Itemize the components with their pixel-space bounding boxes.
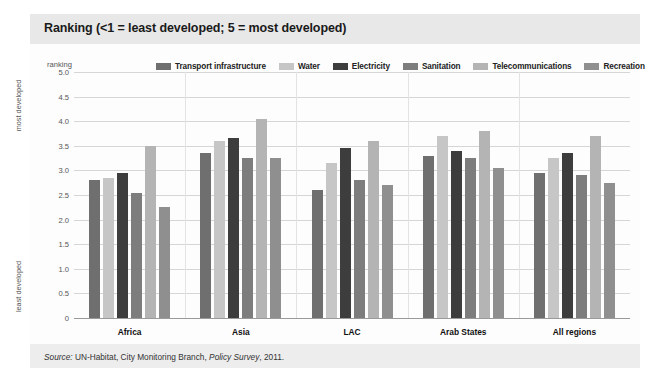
bar — [214, 141, 225, 318]
bar — [103, 178, 114, 318]
source-prefix: Source: — [44, 352, 73, 362]
gridline: 0 — [74, 318, 630, 319]
legend-entry: Telecommunications — [473, 62, 571, 71]
bar-group: Africa — [74, 72, 185, 318]
y-axis-tick-label: 0.5 — [58, 289, 69, 298]
legend-label: Recreation — [603, 62, 644, 71]
source-note: Source: UN-Habitat, City Monitoring Bran… — [44, 352, 284, 362]
bar — [159, 207, 170, 318]
bar — [534, 173, 545, 318]
legend-swatch-icon — [333, 63, 348, 70]
bar — [604, 183, 615, 318]
x-axis-category-label: Africa — [74, 327, 185, 337]
chart-figure: Ranking (<1 = least developed; 5 = most … — [0, 0, 670, 390]
legend-entry: Sanitation — [403, 62, 461, 71]
legend-entry: Water — [279, 62, 320, 71]
bar — [89, 180, 100, 318]
bar — [576, 175, 587, 318]
bar — [256, 119, 267, 318]
legend-entry: Transport infrastructure — [156, 62, 266, 71]
legend-entry: Recreation — [584, 62, 644, 71]
bar — [479, 131, 490, 318]
source-text: UN-Habitat, City Monitoring Branch, — [73, 352, 210, 362]
x-axis-category-label: Arab States — [408, 327, 519, 337]
legend-label: Electricity — [352, 62, 390, 71]
bar — [200, 153, 211, 318]
bar — [270, 158, 281, 318]
x-axis-category-label: Asia — [185, 327, 296, 337]
bar — [382, 185, 393, 318]
chart-title: Ranking (<1 = least developed; 5 = most … — [44, 21, 346, 35]
bar-group: LAC — [296, 72, 407, 318]
legend-swatch-icon — [403, 63, 418, 70]
x-axis-category-label: All regions — [519, 327, 630, 337]
legend-label: Sanitation — [422, 62, 461, 71]
bar — [465, 158, 476, 318]
bar — [117, 173, 128, 318]
bar — [312, 190, 323, 318]
y-axis-tick-label: 0 — [65, 314, 69, 323]
bar — [228, 138, 239, 318]
legend-label: Transport infrastructure — [175, 62, 266, 71]
bar — [590, 136, 601, 318]
bar — [451, 151, 462, 318]
bar — [548, 158, 559, 318]
legend-swatch-icon — [156, 63, 171, 70]
bar — [242, 158, 253, 318]
legend-swatch-icon — [473, 63, 488, 70]
bar — [340, 148, 351, 318]
plot-area: 5.04.54.03.53.02.52.01.51.00.50 AfricaAs… — [74, 72, 630, 318]
bar — [493, 168, 504, 318]
y-axis-tick-label: 4.5 — [58, 92, 69, 101]
bar — [145, 146, 156, 318]
y-axis-tick-label: 2.0 — [58, 215, 69, 224]
legend-swatch-icon — [584, 63, 599, 70]
x-axis-category-label: LAC — [296, 327, 407, 337]
source-work-title: Policy Survey — [209, 352, 259, 362]
y-axis-tick-label: 5.0 — [58, 68, 69, 77]
bar — [326, 163, 337, 318]
bar — [368, 141, 379, 318]
y-axis-note-most-developed: most developed — [14, 74, 23, 138]
y-axis-tick-label: 2.5 — [58, 191, 69, 200]
bar — [354, 180, 365, 318]
bar-group: Asia — [185, 72, 296, 318]
y-axis-tick-label: 4.0 — [58, 117, 69, 126]
bar-group: Arab States — [408, 72, 519, 318]
chart-legend: Transport infrastructureWaterElectricity… — [156, 60, 636, 72]
y-axis-tick-label: 1.5 — [58, 240, 69, 249]
legend-entry: Electricity — [333, 62, 390, 71]
y-axis-note-least-developed: least developed — [14, 255, 23, 319]
y-axis-tick-label: 3.5 — [58, 141, 69, 150]
legend-swatch-icon — [279, 63, 294, 70]
y-axis-tick-label: 1.0 — [58, 264, 69, 273]
bar — [131, 193, 142, 318]
y-axis-tick-label: 3.0 — [58, 166, 69, 175]
legend-label: Telecommunications — [492, 62, 571, 71]
bar-groups: AfricaAsiaLACArab StatesAll regions — [74, 72, 630, 318]
bar-group: All regions — [519, 72, 630, 318]
source-suffix: , 2011. — [259, 352, 284, 362]
legend-label: Water — [298, 62, 320, 71]
bar — [437, 136, 448, 318]
bar — [423, 156, 434, 318]
bar — [562, 153, 573, 318]
